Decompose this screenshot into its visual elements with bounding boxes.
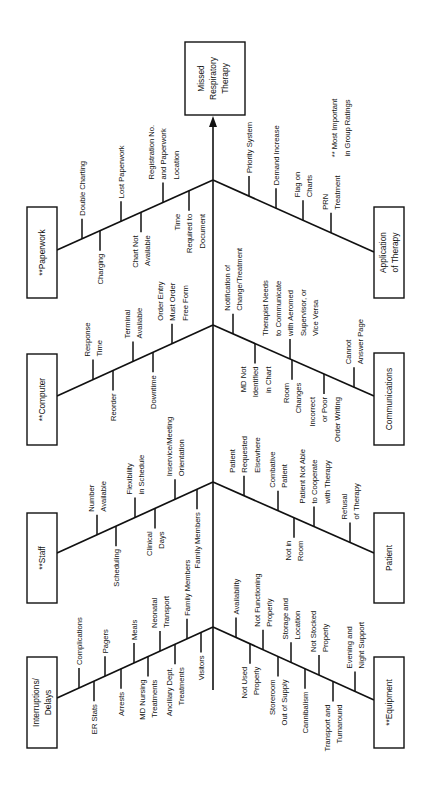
cause-label: Notification ofChange/Treatment [223, 247, 245, 311]
label-line: Orientation [177, 439, 186, 476]
label-line: MD Not [239, 366, 248, 393]
label-line: **Paperwork [37, 228, 47, 275]
label-line: Night Support [357, 621, 366, 668]
effect-box: MissedRespiratoryTherapy [185, 42, 245, 115]
cause-item: Refusalof Therapy [340, 483, 362, 542]
cause-label: Inservice/MeetingOrientation [165, 417, 187, 477]
cause-label: Downtime [149, 375, 158, 409]
arrow-head-icon [209, 116, 217, 127]
cause-label: Registration No.and PaperworkLocation [147, 125, 181, 179]
label-line: to Communicate [274, 281, 283, 336]
spine [209, 116, 217, 690]
note-text: ** Most Importantin Group Ratings [330, 98, 352, 158]
cause-item: Order EntryMust OrderFree Form [156, 281, 190, 343]
label-line: of Therapy [352, 483, 361, 519]
label-line: **Computer [37, 378, 47, 422]
label-line: Not Functioning [253, 574, 262, 627]
cause-item: Family Members [183, 559, 192, 638]
label-line: Priority System [245, 122, 254, 173]
label-line: Registration No. [147, 125, 156, 179]
cause-label: ClinicalDays [145, 531, 167, 556]
cause-item: CannotAnswer Page [344, 319, 366, 387]
cause-item: PatientRequestedElsewhere [228, 436, 262, 496]
label-line: Available [135, 308, 144, 339]
label-line: Supervisor, or [299, 289, 308, 336]
cause-label: Family Members [183, 559, 192, 615]
cause-label: Order EntryMust OrderFree Form [156, 281, 190, 320]
category-label-paperwork: **Paperwork [37, 228, 47, 275]
label-line: Order Entry [156, 281, 165, 320]
label-line: Location [172, 151, 181, 180]
cause-label: Therapist Needsto Communicatewith Aerome… [261, 280, 320, 337]
label-line: Ancillary Dept. [165, 667, 174, 716]
cause-label: Visitors [197, 655, 206, 680]
cause-item: Visitors [197, 632, 206, 680]
label-line: Location [293, 611, 302, 640]
cause-label: Priority System [245, 122, 254, 173]
label-line: ** Most Important [330, 98, 339, 158]
label-line: Communications [384, 368, 394, 430]
cause-label: CannotAnswer Page [344, 319, 366, 364]
label-line: Days [157, 531, 166, 549]
label-line: Number [87, 484, 96, 511]
cause-label: MD NursingTreatments [138, 679, 160, 719]
cause-item: Downtime [149, 352, 158, 409]
cause-label: Not FunctioningProperly [253, 574, 275, 627]
bone-paperwork: **PaperworkDouble ChartingChargingLost P… [27, 125, 213, 298]
label-line: Complications [75, 617, 84, 665]
cause-label: Family Members [193, 512, 202, 568]
cause-item: Family Members [193, 489, 202, 568]
cause-label: TerminalAvailable [123, 308, 145, 339]
cause-item: Pagers [101, 629, 110, 676]
cause-label: Incorrector PoorOrder Writing [308, 396, 342, 442]
cause-item: Availability [232, 578, 241, 637]
cause-label: Meals [130, 620, 139, 640]
cause-item: Flag onCharts [293, 172, 315, 220]
label-line: Storeroom [268, 680, 277, 715]
cause-item: Incorrector PoorOrder Writing [308, 374, 342, 442]
cause-label: NumberAvailable [87, 481, 109, 512]
label-line: MD Nursing [138, 680, 147, 720]
cause-label: ER Stats [90, 704, 99, 734]
label-line: Turnaround [335, 704, 344, 743]
cause-item: Not inRoom [284, 518, 306, 561]
label-line: Flexibility [125, 463, 134, 494]
cause-item: Arrests [117, 669, 126, 716]
cause-label: Transport andTurnaround [323, 704, 345, 751]
cause-label: PRNTreatment [321, 175, 343, 210]
cause-item: Charging [96, 231, 105, 285]
cause-label: RoomChanges [282, 383, 304, 414]
cause-label: ResponseTime [83, 322, 105, 356]
label-line: Not Stocked [309, 611, 318, 652]
cause-item: Demand Increase [272, 125, 281, 208]
cause-label: PatientRequestedElsewhere [228, 436, 262, 473]
cause-label: Cannibalism [301, 692, 310, 734]
cause-label: Not StockedProperly [309, 611, 331, 652]
label-line: Interruptions/ [31, 677, 41, 727]
cause-item: ClinicalDays [145, 508, 167, 555]
label-line: Answer Page [356, 319, 365, 364]
cause-item: Transport andTurnaround [323, 681, 345, 751]
category-bones: **PaperworkDouble ChartingChargingLost P… [27, 122, 404, 751]
label-line: Chart Not [131, 234, 140, 267]
cause-item: Therapist Needsto Communicatewith Aerome… [261, 280, 320, 359]
cause-label: Scheduling [112, 549, 121, 587]
label-line: Lost Paperwork [117, 145, 126, 198]
category-label-patient: Patient [384, 544, 394, 571]
label-line: **Equipment [384, 679, 394, 726]
label-line: Treatments [150, 679, 159, 717]
label-line: in Chart [264, 366, 273, 393]
label-line: Application [378, 232, 388, 273]
label-line: Out of Supply [280, 679, 289, 725]
cause-label: Complications [75, 617, 84, 665]
label-line: Charts [305, 175, 314, 198]
label-line: Transport [162, 595, 171, 628]
label-line: Required to [185, 214, 194, 253]
label-line: Downtime [149, 375, 158, 409]
label-line: Patient Not Able [298, 449, 307, 503]
cause-item: NumberAvailable [87, 481, 109, 535]
cause-item: TerminalAvailable [123, 308, 145, 362]
cause-item: TimeRequired toDocument [173, 191, 207, 253]
cause-label: Storage andLocation [281, 598, 303, 639]
label-line: Room [282, 383, 291, 403]
